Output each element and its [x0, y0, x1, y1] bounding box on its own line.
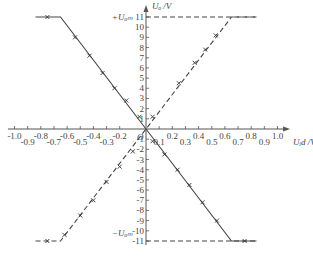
y-tick-label: -7 — [137, 195, 145, 205]
data-point-marker-icon — [151, 115, 155, 119]
y-tick-label: -6 — [137, 185, 145, 195]
data-point-marker-icon — [131, 149, 135, 153]
x-axis-arrow-icon — [283, 127, 290, 132]
y-tick-label: 1 — [140, 114, 145, 124]
x-tick-label: 0.5 — [206, 137, 218, 147]
x-tick-label: 1.0 — [272, 131, 284, 141]
negative-saturation-label: −Uₒₘ — [112, 228, 133, 238]
x-tick-label: 0.6 — [219, 131, 231, 141]
x-tick-label: 0.7 — [232, 137, 244, 147]
y-tick-label: -4 — [137, 165, 145, 175]
positive-saturation-label: +Uₒₘ — [112, 12, 133, 22]
data-point-marker-icon — [177, 81, 181, 85]
x-tick-label: 0.3 — [180, 137, 192, 147]
x-tick-label: 0.8 — [246, 131, 258, 141]
y-tick-label: 4 — [140, 83, 145, 93]
y-tick-label: 3 — [140, 93, 145, 103]
y-axis-label: Uₒ /V — [152, 1, 173, 11]
x-tick-label: 0.2 — [167, 131, 178, 141]
data-point-marker-icon — [78, 214, 82, 218]
y-tick-label: -2 — [137, 144, 145, 154]
y-tick-label: 11 — [135, 12, 144, 22]
data-point-marker-icon — [118, 165, 122, 169]
y-tick-label: 2 — [140, 104, 145, 114]
transfer-characteristic-chart: -1.0-0.9-0.8-0.7-0.6-0.5-0.4-0.3-0.20.10… — [0, 0, 313, 259]
origin-label: O — [137, 132, 144, 142]
y-tick-label: -10 — [132, 226, 144, 236]
y-tick-label: 6 — [140, 63, 145, 73]
y-tick-label: -3 — [137, 155, 145, 165]
y-tick-label: 10 — [135, 22, 145, 32]
y-tick-label: -9 — [137, 216, 145, 226]
x-tick-label: 0.9 — [259, 137, 271, 147]
y-tick-label: 8 — [140, 43, 145, 53]
x-axis-label: Uᵢd /V — [293, 137, 313, 147]
y-tick-label: 7 — [140, 53, 145, 63]
y-tick-label: 9 — [140, 32, 145, 42]
y-tick-label: -11 — [132, 236, 144, 246]
x-tick-label: 0.4 — [193, 131, 205, 141]
x-tick-label: -0.2 — [113, 131, 127, 141]
y-tick-label: -5 — [137, 175, 145, 185]
y-axis-arrow-icon — [144, 5, 149, 12]
y-tick-label: 5 — [140, 73, 145, 83]
y-tick-label: -8 — [137, 205, 145, 215]
